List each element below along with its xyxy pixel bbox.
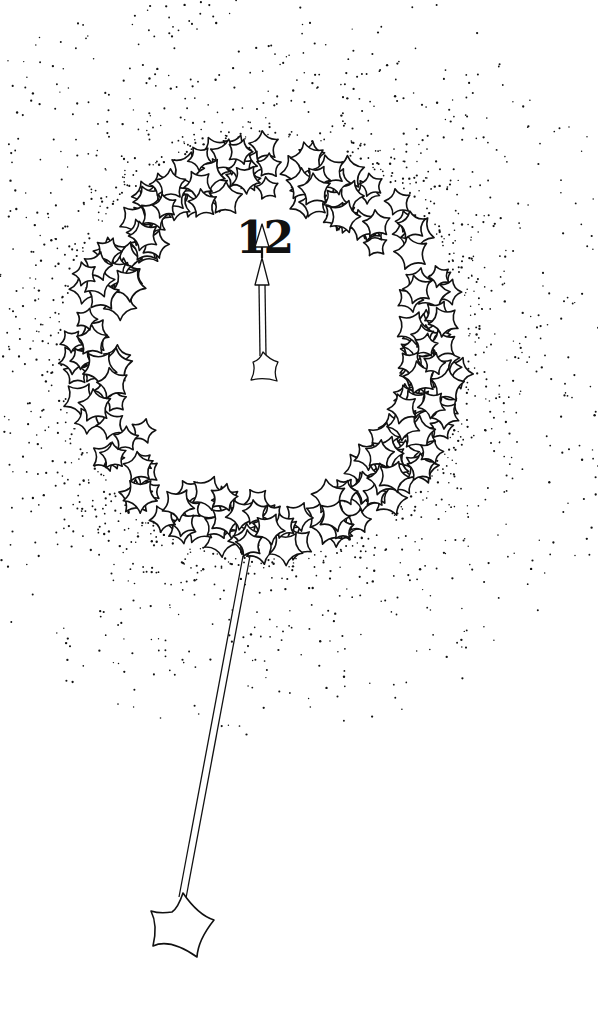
star-wreath-clock-illustration: 12 <box>0 0 598 1036</box>
